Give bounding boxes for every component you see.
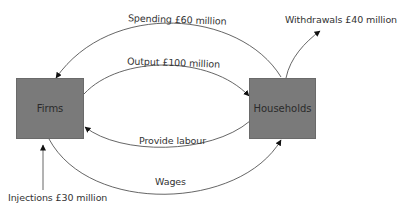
injections-label: Injections £30 million <box>8 192 107 203</box>
wages-label: Wages <box>155 176 186 187</box>
output-flow-arrow <box>84 65 249 96</box>
firms-label: Firms <box>37 103 64 114</box>
households-box: Households <box>249 78 316 139</box>
labour-label: Provide labour <box>139 135 206 146</box>
withdrawals-label: Withdrawals £40 million <box>285 14 397 25</box>
withdrawals-flow-arrow <box>286 31 320 78</box>
firms-box: Firms <box>16 78 84 139</box>
households-label: Households <box>253 103 311 114</box>
spending-flow-arrow <box>56 23 281 78</box>
